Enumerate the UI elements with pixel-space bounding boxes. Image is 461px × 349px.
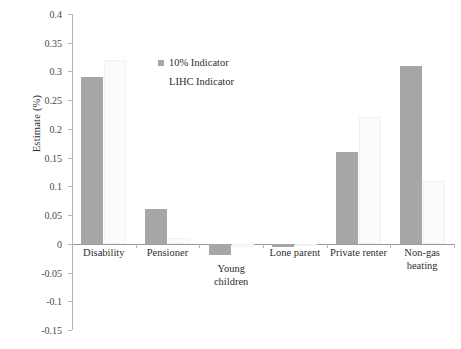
y-tick-mark [68, 100, 72, 101]
y-tick-mark [68, 186, 72, 187]
x-axis-category-labels: DisabilityPensionerYoungchildrenLone par… [72, 246, 454, 316]
y-tick-mark [68, 158, 72, 159]
bar-chart: Estimate (%) 0.40.350.30.250.20.150.10.0… [0, 0, 461, 349]
x-axis-label-line: heating [378, 259, 461, 272]
y-tick-label: 0.35 [45, 37, 63, 48]
x-axis-label: Pensioner [124, 246, 212, 259]
y-tick-label: -0.1 [46, 296, 62, 307]
legend-label: 10% Indicator [169, 57, 229, 68]
legend-entry: 10% Indicator [158, 53, 308, 72]
x-axis-label-line: Non-gas [378, 246, 461, 259]
bar-primary [400, 66, 422, 244]
y-tick-label: 0.15 [45, 152, 63, 163]
y-tick-label: 0.2 [50, 123, 63, 134]
legend-swatch-primary-icon [158, 60, 164, 66]
y-tick-label: -0.15 [41, 325, 62, 336]
x-axis-label-line: children [187, 275, 275, 288]
bar-primary [81, 77, 103, 244]
y-axis-tick-labels: 0.40.350.30.250.20.150.10.050-0.05-0.1-0… [0, 0, 72, 349]
bar-secondary [423, 181, 445, 244]
y-tick-mark [68, 71, 72, 72]
y-tick-label: 0.05 [45, 210, 63, 221]
x-axis-label: Non-gasheating [378, 246, 461, 272]
bar-secondary [104, 60, 126, 244]
x-axis-label: Youngchildren [187, 262, 275, 288]
x-axis-label-line: Pensioner [124, 246, 212, 259]
bar-primary [145, 209, 167, 243]
y-tick-label: -0.05 [41, 267, 62, 278]
y-tick-mark [68, 43, 72, 44]
y-tick-mark [68, 215, 72, 216]
y-tick-label: 0.25 [45, 95, 63, 106]
bar-primary [336, 152, 358, 244]
legend-swatch-secondary-icon [158, 79, 164, 85]
legend-label: LIHC Indicator [169, 76, 234, 87]
y-tick-mark [68, 129, 72, 130]
y-tick-label: 0.1 [50, 181, 63, 192]
bar-secondary [359, 117, 381, 243]
y-tick-mark [68, 330, 72, 331]
x-axis-label-line: Young [187, 262, 275, 275]
legend-entry: LIHC Indicator [158, 72, 308, 91]
y-tick-label: 0.3 [50, 66, 63, 77]
y-tick-mark [68, 14, 72, 15]
bar-secondary [168, 238, 190, 244]
y-tick-label: 0.4 [50, 9, 63, 20]
chart-legend: 10% IndicatorLIHC Indicator [158, 53, 308, 91]
